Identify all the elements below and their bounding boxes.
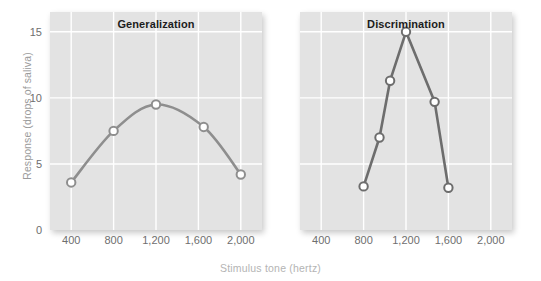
panel-title-generalization: Generalization — [50, 18, 262, 30]
x-tick-label: 400 — [62, 234, 80, 246]
x-tick-label: 1,600 — [185, 234, 213, 246]
data-point-marker — [359, 182, 367, 190]
x-tick-label: 2,000 — [477, 234, 505, 246]
data-point-marker — [67, 178, 75, 186]
plot-svg-discrimination — [300, 12, 512, 230]
x-tick-label: 800 — [104, 234, 122, 246]
x-tick-label: 800 — [354, 234, 372, 246]
y-axis-tick-labels: 051015 — [0, 0, 46, 281]
y-tick-label: 0 — [36, 225, 42, 236]
data-point-marker — [109, 127, 117, 135]
x-tick-label: 400 — [312, 234, 330, 246]
panel-generalization: Generalization — [50, 12, 262, 230]
data-point-marker — [386, 77, 394, 85]
data-point-marker — [430, 98, 438, 106]
data-point-marker — [444, 184, 452, 192]
y-tick-label: 10 — [30, 92, 42, 103]
y-tick-label: 5 — [36, 158, 42, 169]
panel-discrimination: Discrimination — [300, 12, 512, 230]
x-axis-tick-labels-generalization: 4008001,2001,6002,000 — [50, 234, 262, 252]
x-tick-label: 1,200 — [392, 234, 420, 246]
x-tick-label: 2,000 — [227, 234, 255, 246]
y-tick-label: 15 — [30, 26, 42, 37]
data-point-marker — [375, 133, 383, 141]
panel-title-discrimination: Discrimination — [300, 18, 512, 30]
x-tick-label: 1,200 — [142, 234, 170, 246]
data-point-marker — [200, 123, 208, 131]
plot-svg-generalization — [50, 12, 262, 230]
data-point-marker — [237, 170, 245, 178]
x-tick-label: 1,600 — [435, 234, 463, 246]
x-axis-tick-labels-discrimination: 4008001,2001,6002,000 — [300, 234, 512, 252]
x-axis-title: Stimulus tone (hertz) — [0, 262, 541, 274]
figure-container: Response (drops of saliva) 051015 Genera… — [0, 0, 541, 281]
data-point-marker — [152, 100, 160, 108]
